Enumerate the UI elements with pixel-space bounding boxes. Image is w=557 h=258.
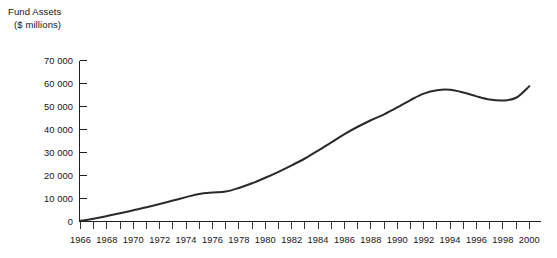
y-tick-label: 70 000 xyxy=(44,56,73,66)
x-tick-label: 1986 xyxy=(334,235,355,245)
fund-assets-line xyxy=(81,86,530,221)
x-tick-label: 1970 xyxy=(123,235,144,245)
chart-plot-area: 70 000 60 000 50 000 40 000 30 000 20 00… xyxy=(0,0,557,258)
x-tick-label: 1982 xyxy=(281,235,302,245)
y-tick-label: 30 000 xyxy=(44,148,73,158)
y-tick-label: 50 000 xyxy=(44,102,73,112)
x-tick-label: 1978 xyxy=(228,235,249,245)
x-tick-label: 1968 xyxy=(96,235,117,245)
y-tick-label: 10 000 xyxy=(44,194,73,204)
x-tick-label: 1976 xyxy=(202,235,223,245)
x-tick-label: 2000 xyxy=(519,235,540,245)
x-axis-group: 1966 1968 1970 1972 1974 1976 1978 1980 … xyxy=(70,222,541,246)
x-tick-label: 1984 xyxy=(308,235,329,245)
y-axis-group: 70 000 60 000 50 000 40 000 30 000 20 00… xyxy=(44,56,87,227)
y-tick-label: 20 000 xyxy=(44,171,73,181)
x-tick-label: 1980 xyxy=(255,235,276,245)
x-tick-label: 1972 xyxy=(149,235,170,245)
y-tick-label: 60 000 xyxy=(44,79,73,89)
x-tick-label: 1992 xyxy=(413,235,434,245)
x-tick-label: 1974 xyxy=(176,235,197,245)
x-tick-label: 1990 xyxy=(387,235,408,245)
fund-assets-chart: Fund Assets ($ millions) 70 000 60 000 5… xyxy=(0,0,557,258)
x-tick-label: 1994 xyxy=(440,235,461,245)
y-tick-label: 40 000 xyxy=(44,125,73,135)
x-tick-label: 1996 xyxy=(466,235,487,245)
x-tick-label: 1988 xyxy=(360,235,381,245)
y-tick-label: 0 xyxy=(68,217,73,227)
x-tick-label: 1966 xyxy=(70,235,91,245)
x-tick-label: 1998 xyxy=(492,235,513,245)
